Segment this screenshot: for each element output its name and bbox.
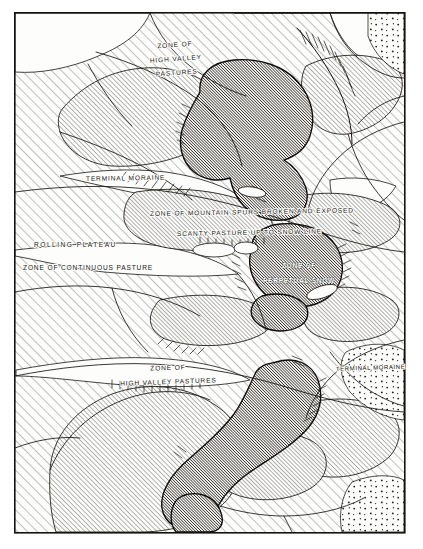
map-label-line: ZONE OF [282,262,316,269]
tarn-upper [193,243,235,257]
map-label-line: TERMINAL MORAINE [86,174,165,182]
tarn-upper-small [234,242,258,254]
map-label-line: ZONE OF [150,363,185,371]
figure-root: ZONE OFHIGH VALLEYPASTURESTERMINAL MORAI… [0,0,423,549]
glacier-neck-central [251,294,308,331]
moraine-stipple-lower-right [340,476,404,532]
map-label-terminal-moraine-upper: TERMINAL MORAINE [86,174,165,182]
map-label-zone-continuous-pasture: ZONE OF CONTINUOUS PASTURE [23,264,153,271]
map-label-line: ZONE OF CONTINUOUS PASTURE [23,264,153,271]
map-label-rolling-plateau: ROLLING PLATEAU [34,241,117,248]
map-label-line: ROLLING PLATEAU [34,241,117,248]
map-body [15,13,404,532]
physiographic-diagram: ZONE OFHIGH VALLEYPASTURESTERMINAL MORAI… [0,0,423,549]
map-label-line: PERPETUAL SNOW [263,277,335,284]
